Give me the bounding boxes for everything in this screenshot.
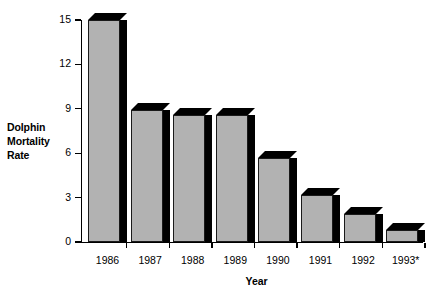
bar-1990 (258, 151, 297, 242)
x-axis-tick-1990 (296, 243, 297, 248)
bar-side-face (163, 110, 170, 242)
bar-1987 (131, 103, 170, 242)
y-axis-tick-label-0: 0 (45, 236, 71, 247)
x-axis-title: Year (207, 275, 307, 287)
bar-front-face (386, 230, 418, 242)
bar-side-face (205, 115, 212, 242)
y-axis-title-line-1: Dolphin (7, 120, 65, 134)
y-axis-tick-0 (75, 241, 81, 242)
bar-front-face (216, 115, 248, 242)
bar-front-face (258, 158, 290, 242)
x-axis-tick-1987 (169, 243, 170, 248)
bar-side-face (376, 214, 383, 242)
bar-1988 (173, 108, 212, 242)
y-axis-tick-9 (75, 108, 81, 109)
bar-top-face (344, 207, 383, 214)
bar-top-face (386, 223, 425, 230)
x-axis-tick-1989 (254, 243, 255, 248)
bar-top-face (258, 151, 297, 158)
bar-top-face (216, 108, 255, 115)
dolphin-mortality-bar-chart: Dolphin Mortality Rate 03691215 19861987… (0, 0, 431, 297)
bar-side-face (333, 195, 340, 242)
y-axis-title-line-2: Mortality (7, 134, 65, 148)
bar-1989 (216, 108, 255, 242)
y-axis-tick-label-12: 12 (45, 58, 71, 69)
y-axis-tick-3 (75, 197, 81, 198)
bar-1986 (88, 13, 127, 242)
bar-front-face (344, 214, 376, 242)
y-axis-tick-12 (75, 64, 81, 65)
x-axis-tick-1993 (424, 243, 425, 248)
y-axis-tick-15 (75, 19, 81, 20)
bar-front-face (301, 195, 333, 242)
bar-side-face (248, 115, 255, 242)
y-axis-tick-label-9: 9 (45, 103, 71, 114)
bar-1993 (386, 223, 425, 242)
bar-front-face (88, 20, 120, 242)
x-axis-tick-1992 (382, 243, 383, 248)
y-axis-tick-label-3: 3 (45, 192, 71, 203)
bar-side-face (120, 20, 127, 242)
y-axis-line (81, 20, 82, 243)
bar-front-face (173, 115, 205, 242)
bar-front-face (131, 110, 163, 242)
x-axis-tick-1988 (211, 243, 212, 248)
bar-side-face (418, 230, 425, 242)
x-axis-tick-1986 (126, 243, 127, 248)
x-axis-line (81, 242, 423, 243)
bar-top-face (131, 103, 170, 110)
bar-1991 (301, 188, 340, 242)
y-axis-tick-label-6: 6 (45, 147, 71, 158)
x-axis-tick-label-1993: 1993* (380, 254, 431, 266)
bar-side-face (290, 158, 297, 242)
x-axis-tick-1991 (339, 243, 340, 248)
y-axis-tick-label-15: 15 (45, 14, 71, 25)
y-axis-tick-6 (75, 153, 81, 154)
bar-top-face (173, 108, 212, 115)
bar-top-face (301, 188, 340, 195)
bar-top-face (88, 13, 127, 20)
bar-1992 (344, 207, 383, 242)
